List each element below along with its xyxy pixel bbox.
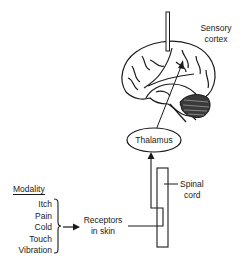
sensory-cortex-line2: cortex	[194, 34, 238, 45]
cortex-probe	[166, 12, 170, 51]
receptors-label: Receptors in skin	[80, 215, 126, 236]
spinal-cord-label: Spinal cord	[180, 179, 210, 200]
modality-title: Modality	[13, 184, 45, 195]
modality-item: Itch	[12, 199, 52, 211]
brain-gyri-1	[128, 56, 150, 90]
modality-brace	[54, 199, 61, 253]
sensory-cortex-line1: Sensory	[194, 23, 238, 34]
arrowhead-receptors	[73, 224, 80, 231]
modality-item: Pain	[12, 211, 52, 223]
spinal-cord-line1: Spinal	[180, 179, 210, 190]
ascending-pathway	[128, 156, 163, 226]
receptors-line1: Receptors	[80, 215, 126, 226]
modality-item: Cold	[12, 222, 52, 234]
arrowhead-thalamus	[148, 152, 155, 159]
brain-gyri-2	[182, 50, 209, 88]
modality-item: Touch	[12, 234, 52, 246]
cerebellum	[180, 95, 210, 118]
modality-list: Itch Pain Cold Touch Vibration	[12, 199, 52, 257]
thalamus-label: Thalamus	[128, 135, 180, 146]
modality-item: Vibration	[12, 245, 52, 257]
sensory-cortex-label: Sensory cortex	[194, 23, 238, 44]
receptors-line2: in skin	[80, 226, 126, 237]
spinal-cord-line2: cord	[180, 190, 210, 201]
